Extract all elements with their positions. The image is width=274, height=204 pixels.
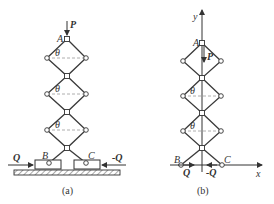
force-p-label: P <box>207 51 214 62</box>
base-b-label: B <box>42 150 48 161</box>
mechanism-diagram: P A θ θ θ <box>0 0 274 204</box>
y-axis-label: y <box>192 11 198 22</box>
angle-label: θ <box>55 47 60 58</box>
link-b <box>181 148 202 165</box>
ground <box>14 170 120 175</box>
angle-label: θ <box>190 85 195 96</box>
base-c-label: C <box>224 154 231 165</box>
force-p-label: P <box>70 19 77 30</box>
figure-b: y x A θ θ P B <box>170 10 262 197</box>
link-c <box>202 148 222 165</box>
force-q-label: Q <box>13 152 20 163</box>
figure-a: P A θ θ θ <box>8 19 126 197</box>
force-neg-q-label: -Q <box>206 167 217 178</box>
force-q-label: Q <box>183 167 190 178</box>
caption-a: (a) <box>62 185 73 197</box>
angle-label: θ <box>190 120 195 131</box>
angle-label: θ <box>55 119 60 130</box>
force-neg-q-label: -Q <box>112 152 123 163</box>
x-axis-label: x <box>255 168 261 179</box>
base-c-label: C <box>88 150 95 161</box>
rhombus-1 <box>47 39 86 76</box>
base-b-label: B <box>174 154 180 165</box>
angle-label: θ <box>55 83 60 94</box>
caption-b: (b) <box>197 185 209 197</box>
